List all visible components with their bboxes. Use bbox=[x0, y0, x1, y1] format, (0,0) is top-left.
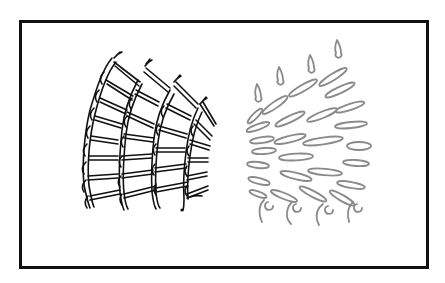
left-ladder-drawing bbox=[82, 52, 216, 211]
illustration bbox=[0, 0, 445, 283]
right-oval-array-drawing bbox=[246, 40, 371, 225]
